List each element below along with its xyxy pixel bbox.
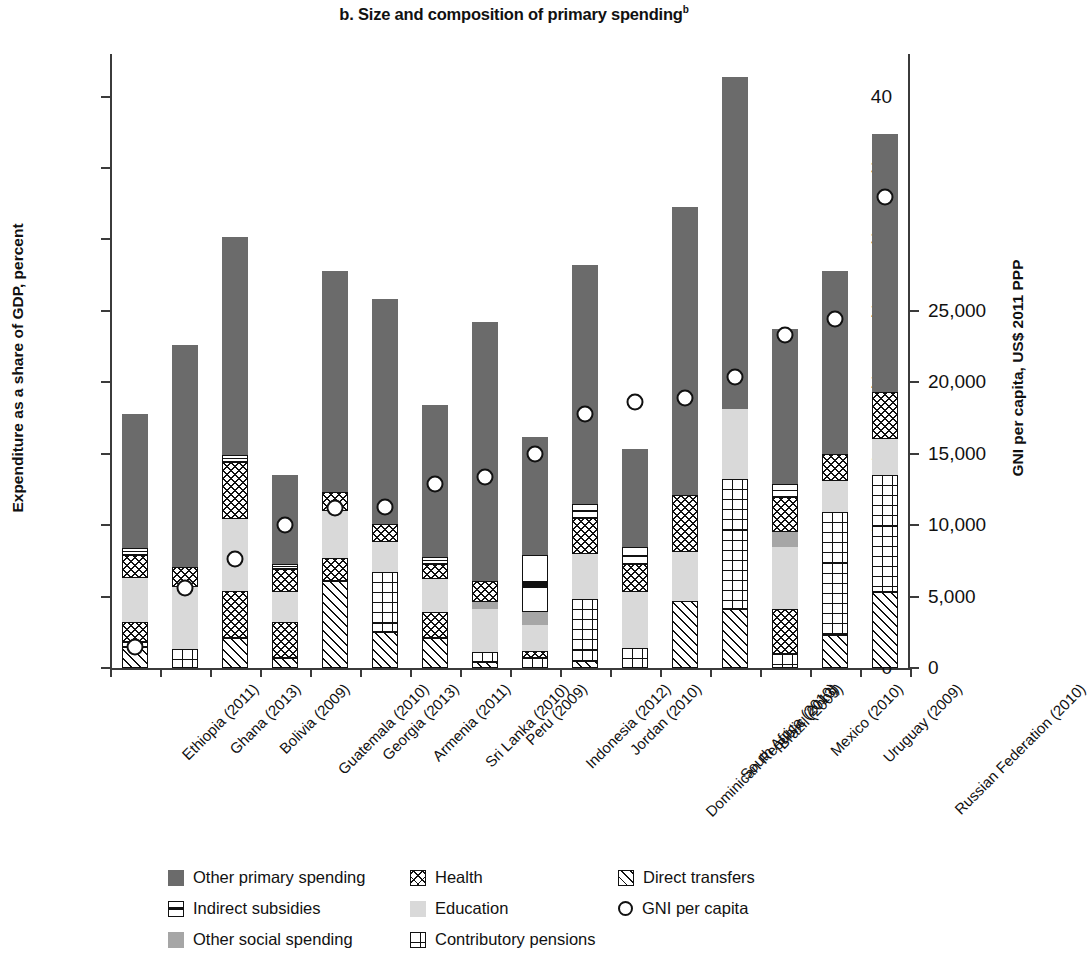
legend-label: Indirect subsidies <box>193 899 320 918</box>
gni-per-capita-marker <box>327 499 344 516</box>
y-axis-left-tick <box>101 167 110 169</box>
bar-segment-health <box>472 581 498 602</box>
y-axis-left-tick <box>101 667 110 669</box>
bar-segment-education <box>272 592 298 622</box>
bar-segment-pensions <box>622 648 648 668</box>
bar-segment-education <box>572 554 598 600</box>
y-axis-right-tick-label: 0 <box>928 657 939 679</box>
legend-item-education[interactable]: Education <box>410 893 596 924</box>
bar-segment-direct <box>472 662 498 668</box>
legend-item-health[interactable]: Health <box>410 862 596 893</box>
bar-group[interactable] <box>122 68 148 668</box>
bar-segment-pensions <box>172 649 198 668</box>
x-axis-tick <box>360 668 362 677</box>
bar-segment-pensions <box>522 658 548 668</box>
bar-group[interactable] <box>422 68 448 668</box>
bar-segment-indirect <box>122 548 148 555</box>
bar-group[interactable] <box>822 68 848 668</box>
x-axis-tick <box>810 668 812 677</box>
bar-segment-health <box>522 651 548 658</box>
gni-per-capita-marker <box>827 311 844 328</box>
x-axis-tick <box>710 668 712 677</box>
x-axis-tick <box>160 668 162 677</box>
legend-swatch-pensions-icon <box>410 932 426 948</box>
y-axis-right-tick <box>910 596 919 598</box>
x-axis-tick <box>210 668 212 677</box>
bar-segment-indirect <box>422 557 448 564</box>
bar-segment-health <box>322 558 348 581</box>
bar-segment-direct <box>672 601 698 668</box>
legend-item-pensions[interactable]: Contributory pensions <box>410 924 596 955</box>
bar-group[interactable] <box>472 68 498 668</box>
bar-segment-health <box>572 518 598 554</box>
bar-segment-other_primary <box>672 207 698 496</box>
gni-per-capita-marker <box>777 327 794 344</box>
y-axis-right-tick-label: 25,000 <box>928 300 986 322</box>
gni-per-capita-marker <box>527 445 544 462</box>
y-axis-left-tick <box>101 238 110 240</box>
bar-segment-health <box>372 524 398 543</box>
bar-segment-other_primary <box>572 265 598 504</box>
bar-group[interactable] <box>722 68 748 668</box>
bar-segment-education <box>422 579 448 612</box>
bar-segment-other_primary <box>772 329 798 483</box>
bar-group[interactable] <box>872 68 898 668</box>
bar-group[interactable] <box>672 68 698 668</box>
bar-segment-indirect <box>622 547 648 564</box>
legend-item-indirect[interactable]: Indirect subsidies <box>168 893 365 924</box>
bar-group[interactable] <box>522 68 548 668</box>
bar-group[interactable] <box>622 68 648 668</box>
bar-group[interactable] <box>222 68 248 668</box>
legend-swatch-other_social-icon <box>168 932 184 948</box>
legend-swatch-gni-icon <box>618 901 633 916</box>
bar-segment-other_primary <box>822 271 848 454</box>
bar-segment-health <box>222 462 248 519</box>
bar-segment-education <box>522 625 548 651</box>
bar-group[interactable] <box>772 68 798 668</box>
legend-item-direct[interactable]: Direct transfers <box>618 862 755 893</box>
bar-segment-other_primary <box>722 77 748 410</box>
bar-group[interactable] <box>272 68 298 668</box>
x-axis-tick <box>460 668 462 677</box>
x-axis-tick <box>410 668 412 677</box>
legend-label: Direct transfers <box>643 868 755 887</box>
legend-swatch-health-icon <box>410 870 426 886</box>
bar-group[interactable] <box>572 68 598 668</box>
chart-title-superscript: b <box>683 4 689 15</box>
bar-segment-pensions <box>372 572 398 632</box>
y-axis-left-line <box>110 54 112 670</box>
x-axis-tick <box>660 668 662 677</box>
y-axis-right-tick-label: 10,000 <box>928 514 986 536</box>
legend-item-gni[interactable]: GNI per capita <box>618 893 755 924</box>
gni-per-capita-marker <box>627 394 644 411</box>
bar-segment-education <box>372 542 398 572</box>
y-axis-right-tick-label: 15,000 <box>928 443 986 465</box>
bar-segment-pensions <box>772 654 798 668</box>
legend-swatch-other_primary-icon <box>168 870 184 886</box>
bar-group[interactable] <box>372 68 398 668</box>
legend-item-other_primary[interactable]: Other primary spending <box>168 862 365 893</box>
y-axis-right-tick <box>910 310 919 312</box>
legend-swatch-direct-icon <box>618 870 634 886</box>
gni-per-capita-marker <box>577 405 594 422</box>
bar-segment-health <box>772 609 798 653</box>
legend-label: Health <box>435 868 483 887</box>
legend-column: HealthEducationContributory pensions <box>410 862 596 955</box>
bar-group[interactable] <box>322 68 348 668</box>
x-axis-tick <box>760 668 762 677</box>
bar-segment-health <box>122 555 148 578</box>
gni-per-capita-marker <box>227 551 244 568</box>
bar-group[interactable] <box>172 68 198 668</box>
plot-area: Expenditure as a share of GDP, percent G… <box>110 68 910 668</box>
chart-legend: Other primary spendingIndirect subsidies… <box>168 862 868 962</box>
bar-segment-other_primary <box>872 134 898 393</box>
bar-segment-direct <box>422 638 448 668</box>
y-axis-left-title: Expenditure as a share of GDP, percent <box>9 223 27 512</box>
bar-segment-health <box>872 392 898 439</box>
bar-segment-education <box>672 552 698 601</box>
legend-item-other_social[interactable]: Other social spending <box>168 924 365 955</box>
y-axis-left-tick <box>101 96 110 98</box>
bar-segment-indirect <box>222 455 248 462</box>
gni-per-capita-marker <box>427 475 444 492</box>
